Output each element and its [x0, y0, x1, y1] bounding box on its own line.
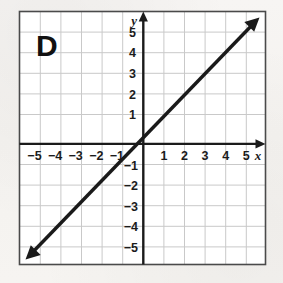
x-tick-label: 3: [202, 149, 209, 163]
x-tick-label: 1: [160, 149, 167, 163]
y-tick-label: 1: [129, 108, 136, 122]
x-tick-label: −4: [48, 149, 62, 163]
y-tick-label: −3: [124, 200, 138, 214]
x-tick-label: 2: [181, 149, 188, 163]
y-tick-label: −5: [124, 241, 138, 255]
panel-letter: D: [36, 29, 58, 62]
graph-canvas: D −5 −4 −3 −2 −1 1 2 3 4 5 5 4 3 2 1 −1 …: [0, 0, 283, 283]
x-tick-label: −1: [110, 149, 124, 163]
y-tick-label: −2: [124, 179, 138, 193]
y-tick-label: 3: [129, 67, 136, 81]
x-tick-label: −2: [89, 149, 103, 163]
x-tick-label: −3: [69, 149, 83, 163]
x-tick-label: 5: [243, 149, 250, 163]
y-tick-label: −1: [124, 159, 138, 173]
y-axis-label: y: [129, 13, 137, 28]
y-tick-label: 4: [129, 46, 136, 60]
x-tick-label: −5: [27, 149, 41, 163]
y-tick-label: −4: [124, 220, 138, 234]
y-tick-label: 2: [129, 88, 136, 102]
x-axis-label: x: [254, 148, 262, 163]
coordinate-grid-figure: D −5 −4 −3 −2 −1 1 2 3 4 5 5 4 3 2 1 −1 …: [0, 0, 283, 283]
x-tick-label: 4: [222, 149, 229, 163]
